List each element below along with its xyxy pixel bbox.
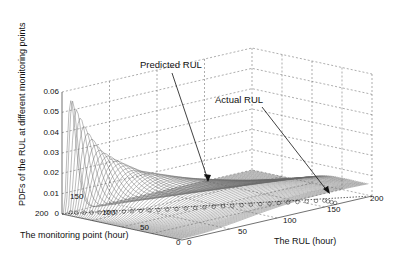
z-tick: 0.01 [43,189,59,198]
z-tick: 0.03 [43,148,59,157]
predicted-rul-annotation: Predicted RUL [140,59,202,70]
x-tick: 0 [187,238,192,247]
x-tick: 200 [370,194,384,203]
z-axis-label: PDFs of the RUL at different monitoring … [17,22,27,206]
actual-rul-annotation: Actual RUL [215,94,263,105]
z-tick: 0.05 [43,107,59,116]
y-tick: 0 [176,238,181,247]
x-tick: 150 [327,205,341,214]
y-tick: 100 [102,208,116,217]
y-tick: 150 [70,192,84,201]
y-tick: 200 [35,209,49,218]
y-axis-label: The monitoring point (hour) [20,230,129,240]
z-tick: 0 [55,209,60,218]
x-tick: 50 [238,227,247,236]
z-tick: 0.02 [43,168,59,177]
z-axis-ticks: 0 0.01 0.02 0.03 0.04 0.05 0.06 [43,87,59,218]
rul-pdf-waterfall-chart: 0 0.01 0.02 0.03 0.04 0.05 0.06 200 150 … [0,0,396,260]
x-tick: 100 [283,216,297,225]
x-axis-label: The RUL (hour) [274,236,336,246]
z-tick: 0.04 [43,128,59,137]
y-tick: 50 [140,223,149,232]
z-tick: 0.06 [43,87,59,96]
chart-axes [62,92,372,240]
predicted-rul-arrow [172,73,208,180]
